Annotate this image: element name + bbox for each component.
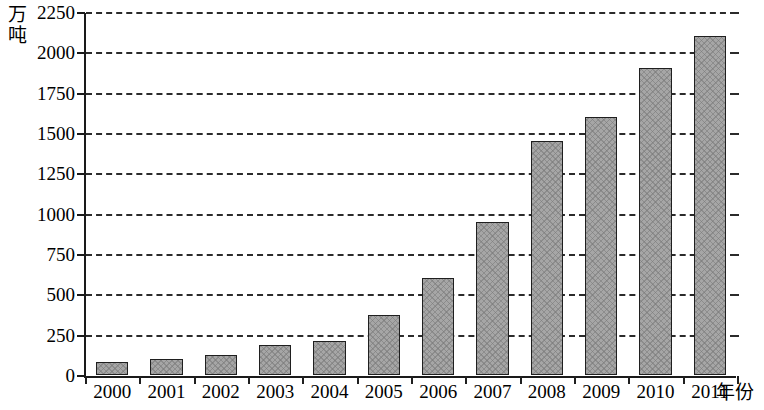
x-axis-tick-label-2008: 2008	[528, 381, 566, 403]
y-axis-tick-1750	[77, 93, 85, 95]
y-axis-tick-1250	[77, 173, 85, 175]
bar-2000	[96, 362, 129, 375]
x-axis-tick-label-2001: 2001	[148, 381, 186, 403]
y-axis-tick-label-750: 750	[47, 245, 76, 264]
gridline-2250	[86, 12, 736, 14]
x-axis-tick-label-2003: 2003	[256, 381, 294, 403]
x-axis-tick-label-2002: 2002	[202, 381, 240, 403]
bar-2008	[531, 141, 564, 375]
y-axis-tick-right-1250	[732, 173, 739, 175]
y-axis-tick-label-2000: 2000	[37, 43, 75, 62]
x-axis-tick-label-2006: 2006	[419, 381, 457, 403]
x-axis-tick-2001	[194, 376, 196, 384]
bar-chart-figure: 万 吨 0250500750100012501500175020002250 2…	[0, 0, 764, 410]
bar-2006	[422, 278, 455, 375]
y-axis-tick-label-1500: 1500	[37, 124, 75, 143]
bar-2010	[639, 68, 672, 375]
y-axis-tick-2250	[77, 12, 85, 14]
y-axis-tick-500	[77, 294, 85, 296]
y-axis-tick-label-500: 500	[47, 285, 76, 304]
y-axis-tick-750	[77, 254, 85, 256]
x-axis-tick-2009	[628, 376, 630, 384]
bar-2003	[259, 345, 292, 375]
y-axis-tick-right-1750	[732, 93, 739, 95]
y-axis-tick-1000	[77, 214, 85, 216]
y-axis-tick-label-250: 250	[47, 326, 76, 345]
y-axis-tick-right-500	[732, 294, 739, 296]
y-axis-tick-label-1000: 1000	[37, 205, 75, 224]
x-axis-tick-label-2005: 2005	[365, 381, 403, 403]
x-axis-tick-2010	[683, 376, 685, 384]
y-axis-tick-0	[77, 375, 85, 377]
y-axis-tick-label-0: 0	[66, 366, 76, 385]
bar-2007	[476, 222, 509, 375]
y-axis-tick-right-2000	[732, 52, 739, 54]
y-axis-tick-right-1500	[732, 133, 739, 135]
y-axis-tick-1500	[77, 133, 85, 135]
x-axis-tick-2002	[248, 376, 250, 384]
bar-2011	[694, 36, 727, 375]
x-axis-tick-label-2010: 2010	[637, 381, 675, 403]
x-axis-tick-2006	[465, 376, 467, 384]
x-axis-tick-label-2000: 2000	[93, 381, 131, 403]
bar-2001	[150, 359, 183, 375]
x-axis-tick-label-2007: 2007	[474, 381, 512, 403]
x-axis-tick-2003	[302, 376, 304, 384]
x-axis-title: 年份	[716, 381, 754, 403]
x-axis-tick-2004	[357, 376, 359, 384]
y-axis-tick-2000	[77, 52, 85, 54]
bar-2009	[585, 117, 618, 375]
y-axis-tick-right-250	[732, 335, 739, 337]
x-axis-tick-label-2004: 2004	[311, 381, 349, 403]
x-axis-tick-2008	[574, 376, 576, 384]
x-axis-tick-origin	[85, 376, 87, 384]
x-axis-tick-2000	[139, 376, 141, 384]
y-axis-line	[84, 13, 86, 378]
gridline-2000	[86, 52, 736, 54]
x-axis-tick-2007	[520, 376, 522, 384]
y-axis-unit-line-2: 吨	[2, 25, 32, 46]
y-axis-tick-250	[77, 335, 85, 337]
y-axis-tick-label-1250: 1250	[37, 164, 75, 183]
y-axis-tick-right-2250	[732, 12, 739, 14]
x-axis-line	[84, 376, 736, 378]
x-axis-tick-2005	[411, 376, 413, 384]
bar-2004	[313, 341, 346, 375]
y-axis-tick-label-2250: 2250	[37, 3, 75, 22]
y-axis-tick-label-1750: 1750	[37, 84, 75, 103]
y-axis-unit-label: 万 吨	[2, 4, 32, 46]
plot-area: 0250500750100012501500175020002250	[84, 13, 736, 377]
y-axis-tick-right-1000	[732, 214, 739, 216]
y-axis-unit-line-1: 万	[2, 4, 32, 25]
bar-2005	[368, 315, 401, 376]
bar-2002	[205, 355, 238, 375]
x-axis-tick-label-2009: 2009	[582, 381, 620, 403]
y-axis-tick-right-750	[732, 254, 739, 256]
